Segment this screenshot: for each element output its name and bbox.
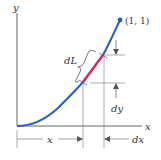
y-axis-label: y (12, 2, 19, 13)
endpoint-label: (1, 1) (125, 16, 149, 26)
arc-length-diagram: y x (1, 1) dL dy x dx (0, 0, 161, 160)
dy-label: dy (111, 103, 123, 114)
curve (17, 20, 120, 126)
dx-label: dx (132, 134, 144, 145)
x-axis-label: x (145, 121, 151, 132)
endpoint-dot (118, 18, 123, 23)
dL-label: dL (64, 55, 77, 66)
x-dimension-label: x (47, 134, 53, 145)
